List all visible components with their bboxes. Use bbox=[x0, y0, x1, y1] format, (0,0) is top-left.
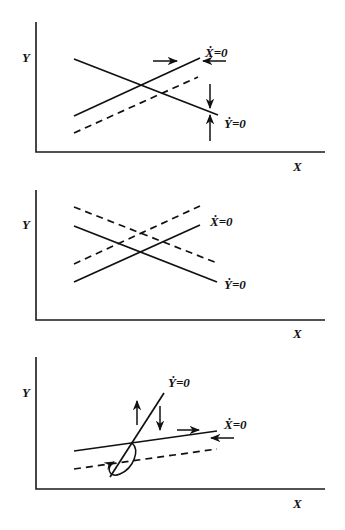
panel-3: Y X Ẏ=0 Ẋ=0 bbox=[22, 357, 325, 511]
y-axis-label: Y bbox=[22, 385, 31, 400]
xdot-zero-label: Ẋ=0 bbox=[204, 45, 228, 60]
x-axis-label: X bbox=[292, 496, 302, 511]
xdot-zero-line bbox=[74, 431, 217, 451]
ydot-zero-label: Ẏ=0 bbox=[224, 116, 246, 131]
xdot-zero-label: Ẋ=0 bbox=[209, 214, 233, 229]
xdot-zero-label: Ẋ=0 bbox=[223, 417, 247, 432]
ydot-zero-label: Ẏ=0 bbox=[168, 375, 190, 390]
panel-2: Y X Ẋ=0 Ẏ=0 bbox=[22, 190, 325, 341]
y-axis-label: Y bbox=[22, 217, 31, 232]
y-axis-label: Y bbox=[22, 50, 31, 65]
shifted-xdot-zero-line bbox=[74, 449, 217, 469]
panel-1: Y X Ẋ=0 Ẏ=0 bbox=[22, 22, 325, 174]
axes bbox=[36, 22, 325, 152]
shifted-xdot-zero-line bbox=[74, 206, 200, 264]
x-axis-label: X bbox=[292, 326, 302, 341]
shifted-xdot-zero-line bbox=[74, 77, 198, 133]
ydot-zero-label: Ẏ=0 bbox=[224, 277, 246, 292]
x-axis-label: X bbox=[292, 159, 302, 174]
phase-diagrams: Y X Ẋ=0 Ẏ=0 Y X Ẋ=0 Ẏ=0 Y X Ẏ=0 bbox=[0, 0, 345, 530]
